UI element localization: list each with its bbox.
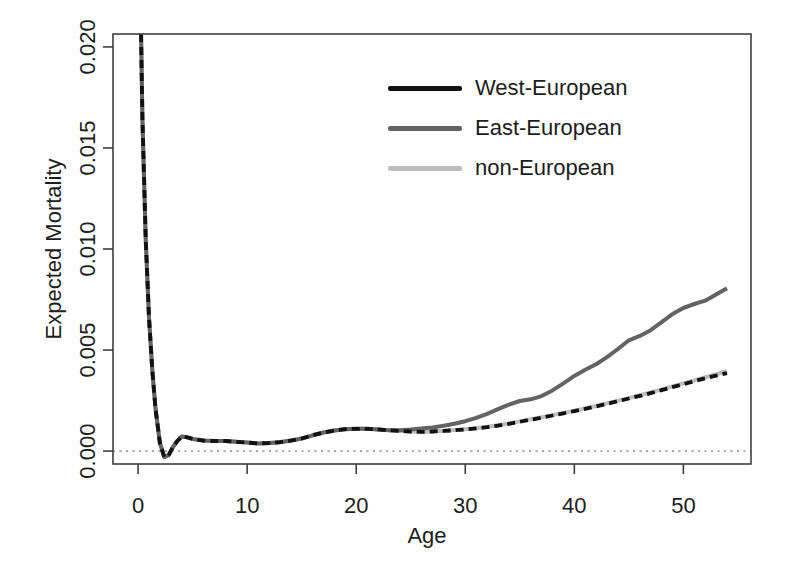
legend-line-east-european <box>388 126 462 131</box>
x-axis-title: Age <box>407 523 446 549</box>
svg-text:0.005: 0.005 <box>75 322 100 377</box>
legend-label-east-european: East-European <box>475 115 622 141</box>
svg-text:0.015: 0.015 <box>75 120 100 175</box>
legend-line-west-european <box>388 86 462 91</box>
svg-text:40: 40 <box>562 493 586 518</box>
legend-label-west-european: West-European <box>475 75 627 101</box>
svg-text:0: 0 <box>132 493 144 518</box>
legend-line-non-european <box>388 166 462 171</box>
svg-text:20: 20 <box>344 493 368 518</box>
legend-label-non-european: non-European <box>475 155 614 181</box>
svg-text:30: 30 <box>453 493 477 518</box>
svg-text:0.010: 0.010 <box>75 221 100 276</box>
legend-item-east-european: East-European <box>388 108 627 148</box>
legend: West-European East-European non-European <box>388 68 627 188</box>
svg-text:0.020: 0.020 <box>75 19 100 74</box>
y-axis-title: Expected Mortality <box>41 159 67 340</box>
legend-item-non-european: non-European <box>388 148 627 188</box>
mortality-chart-figure: 010203040500.0000.0050.0100.0150.020 Exp… <box>0 0 786 568</box>
legend-item-west-european: West-European <box>388 68 627 108</box>
svg-text:10: 10 <box>235 493 259 518</box>
svg-text:0.000: 0.000 <box>75 424 100 479</box>
svg-text:50: 50 <box>671 493 695 518</box>
